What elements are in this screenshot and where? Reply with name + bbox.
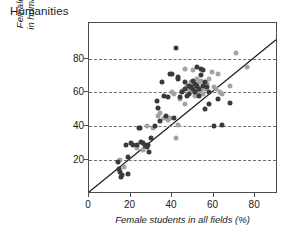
data-point (176, 122, 181, 127)
y-axis-tick-labels: 20406080 (60, 22, 84, 193)
x-axis-label: Female students in all fields (%) (88, 214, 277, 225)
data-point (178, 95, 183, 100)
x-tick-label-60: 60 (207, 199, 218, 210)
y-tick-label-20: 20 (73, 154, 84, 165)
gridline-y-40 (89, 126, 276, 127)
y-tick-mark-20 (84, 159, 88, 160)
gridline-y-80 (89, 59, 276, 60)
chart-container: Humanities 20406080 Female students in a… (0, 0, 291, 234)
data-point (147, 149, 152, 154)
data-point (146, 142, 151, 147)
data-point (153, 124, 158, 129)
data-point (149, 136, 154, 141)
data-point (209, 70, 214, 75)
data-point (182, 66, 187, 71)
y-axis-label-line-2: in humanities (%) (25, 0, 36, 48)
data-point (203, 107, 208, 112)
data-point (176, 76, 181, 81)
data-point (165, 95, 170, 100)
data-point (172, 115, 177, 120)
y-tick-label-60: 60 (73, 86, 84, 97)
x-tick-label-20: 20 (124, 199, 135, 210)
x-tick-label-80: 80 (249, 199, 260, 210)
data-point (186, 92, 191, 97)
x-tick-mark-0 (88, 193, 89, 197)
x-tick-label-0: 0 (85, 199, 91, 210)
data-point (228, 83, 233, 88)
data-point (126, 154, 131, 159)
data-point (126, 171, 131, 176)
data-point (120, 173, 125, 178)
data-point (215, 97, 220, 102)
data-point (197, 93, 202, 98)
data-point (170, 71, 175, 76)
data-point (154, 98, 159, 103)
data-point (157, 110, 162, 115)
data-point (207, 102, 212, 107)
data-point (174, 46, 179, 51)
data-point (207, 90, 212, 95)
data-point (244, 65, 249, 70)
y-tick-label-40: 40 (73, 120, 84, 131)
data-point (228, 100, 233, 105)
data-point (219, 122, 224, 127)
data-point (174, 136, 179, 141)
data-point (155, 105, 160, 110)
data-point (172, 92, 177, 97)
data-point (116, 159, 121, 164)
x-tick-mark-20 (130, 193, 131, 197)
data-point (163, 114, 168, 119)
data-point (234, 51, 239, 56)
data-point (201, 68, 206, 73)
data-point (137, 125, 142, 130)
y-tick-mark-60 (84, 91, 88, 92)
y-tick-label-80: 80 (73, 52, 84, 63)
plot-area (89, 23, 276, 192)
y-tick-mark-80 (84, 58, 88, 59)
y-axis-label: Female students in humanities (%) (14, 0, 36, 48)
data-point (211, 124, 216, 129)
plot-frame (88, 22, 277, 193)
x-tick-mark-80 (254, 193, 255, 197)
data-point (157, 119, 162, 124)
data-point (122, 164, 127, 169)
data-point (182, 102, 187, 107)
x-tick-label-40: 40 (166, 199, 177, 210)
y-axis-label-line-1: Female students (14, 0, 25, 48)
data-point (159, 80, 164, 85)
y-tick-mark-40 (84, 125, 88, 126)
data-point (219, 92, 224, 97)
data-point (215, 71, 220, 76)
data-point (145, 124, 150, 129)
data-point (199, 73, 204, 78)
x-tick-mark-40 (171, 193, 172, 197)
x-tick-mark-60 (213, 193, 214, 197)
